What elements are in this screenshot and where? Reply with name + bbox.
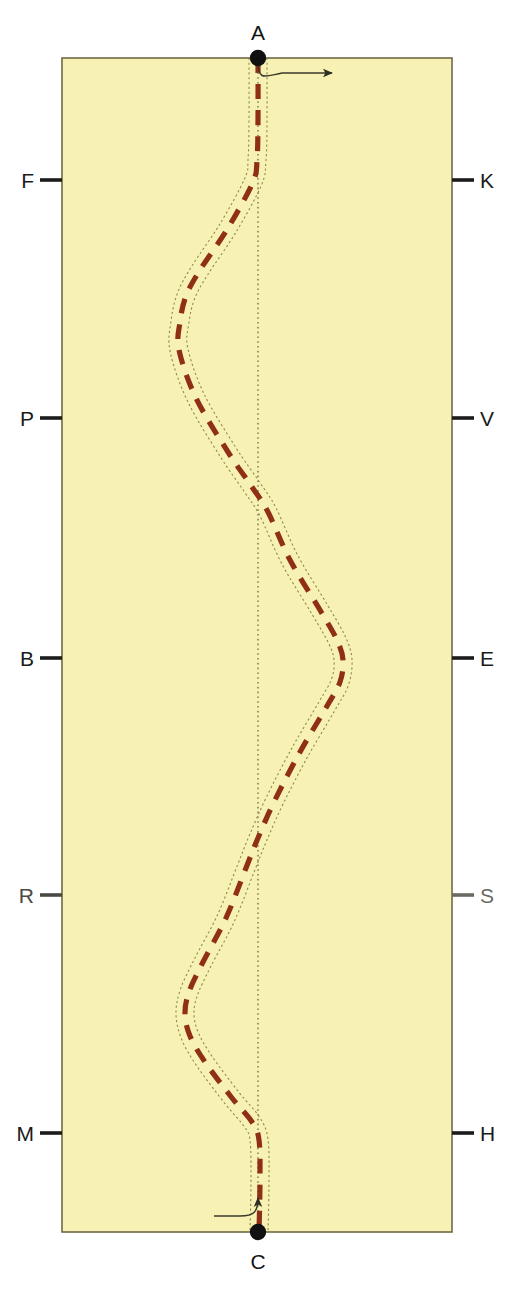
diagram-canvas: FPBRM KVESH A C bbox=[0, 0, 519, 1313]
node-dot-c bbox=[250, 1224, 266, 1240]
tick-label-f: F bbox=[21, 169, 34, 192]
node-dot-a bbox=[250, 50, 266, 66]
node-label-a: A bbox=[251, 21, 265, 44]
node-label-c: C bbox=[250, 1250, 265, 1273]
tick-label-r: R bbox=[19, 884, 34, 907]
tick-label-h: H bbox=[480, 1122, 495, 1145]
tick-label-k: K bbox=[480, 169, 494, 192]
tick-label-m: M bbox=[17, 1122, 35, 1145]
tick-label-e: E bbox=[480, 647, 494, 670]
tick-label-p: P bbox=[20, 407, 34, 430]
right-tick-group: KVESH bbox=[452, 169, 495, 1145]
panel-rectangle bbox=[62, 58, 452, 1232]
figure-svg: FPBRM KVESH A C bbox=[0, 0, 519, 1313]
left-tick-group: FPBRM bbox=[17, 169, 63, 1145]
tick-label-s: S bbox=[480, 884, 494, 907]
tick-label-v: V bbox=[480, 407, 494, 430]
tick-label-b: B bbox=[20, 647, 34, 670]
